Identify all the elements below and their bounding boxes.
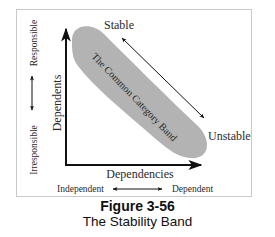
- unstable-label: Unstable: [208, 129, 251, 143]
- irresponsible-label: Irresponsible: [29, 125, 39, 175]
- dependent-label: Dependent: [172, 184, 214, 194]
- figure-title: The Stability Band: [0, 214, 275, 230]
- x-axis-label: Dependencies: [106, 167, 174, 181]
- figure-number: Figure 3-56: [0, 198, 275, 214]
- stable-label: Stable: [104, 18, 134, 32]
- independent-label: Independent: [57, 184, 104, 194]
- responsible-label: Responsible: [29, 20, 39, 66]
- y-axis-label: Dependents: [50, 74, 64, 131]
- common-category-band: [72, 26, 207, 158]
